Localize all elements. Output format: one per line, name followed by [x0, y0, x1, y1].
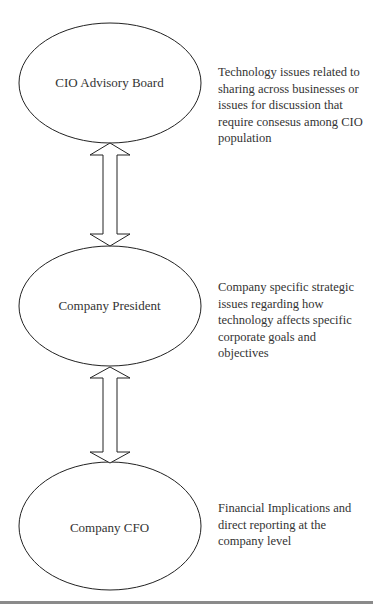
node-label-cio-advisory-board: CIO Advisory Board [18, 75, 201, 91]
node-label-company-president: Company President [18, 298, 201, 314]
double-arrow-connector [90, 367, 130, 463]
description-company-president: Company specific strategic issues regard… [218, 279, 368, 362]
double-arrow-connector [90, 143, 130, 246]
description-cio-advisory-board: Technology issues related to sharing acr… [218, 64, 368, 147]
node-label-company-cfo: Company CFO [18, 520, 201, 536]
description-company-cfo: Financial Implications and direct report… [218, 500, 368, 550]
